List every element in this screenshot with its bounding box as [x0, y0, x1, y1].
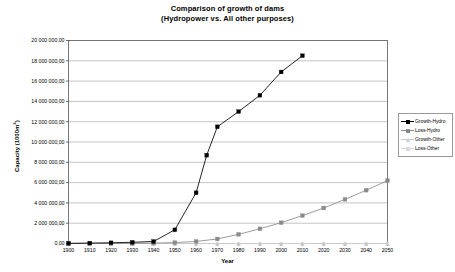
series-growth-hydro [67, 54, 305, 245]
legend-label-loss-other: Loss-Other [414, 144, 439, 153]
y-axis-tick-label: 6 000 000,00 [17, 179, 65, 185]
y-axis-tick-label: 14 000 000,00 [17, 98, 65, 104]
y-axis-tick-label: 8 000 000,00 [17, 159, 65, 165]
legend-label-loss-hydro: Loss-Hydro [414, 126, 440, 135]
legend-label-growth-other: Growth-Other [414, 135, 445, 144]
legend-marker-icon-growth-hydro [401, 117, 414, 126]
y-axis-tick-label: 4 000 000,00 [17, 200, 65, 206]
y-axis-tick-label: 12 000 000,00 [17, 119, 65, 125]
y-axis-tick-label: 18 000 000,00 [17, 58, 65, 64]
legend-label-growth-hydro: Growth-Hydro [414, 117, 445, 126]
y-axis-tick-label: 0,00 [17, 240, 65, 246]
legend-marker-icon-growth-other [401, 135, 414, 144]
y-axis-tick-label: 20 000 000,00 [17, 37, 65, 43]
y-axis-tick-label: 2 000 000,00 [17, 220, 65, 226]
plot-svg [0, 0, 455, 272]
legend-item-growth-hydro[interactable]: Growth-Hydro [401, 117, 450, 126]
legend-item-growth-other[interactable]: Growth-Other [401, 135, 450, 144]
legend-item-loss-other[interactable]: Loss-Other [401, 144, 450, 153]
chart-container: Comparison of growth of dams (Hydropower… [0, 0, 455, 272]
legend-marker-icon-loss-other [401, 144, 414, 153]
legend-item-loss-hydro[interactable]: Loss-Hydro [401, 126, 450, 135]
series-loss-hydro [67, 179, 390, 246]
x-axis-label: Year [0, 258, 455, 264]
legend-marker-icon-loss-hydro [401, 126, 414, 135]
y-axis-tick-label: 16 000 000,00 [17, 78, 65, 84]
chart-legend: Growth-Hydro Loss-Hydro Growth-Other Los… [398, 113, 453, 157]
x-axis-tick-label: 2050 [373, 247, 403, 253]
y-axis-tick-label: 10 000 000,00 [17, 139, 65, 145]
